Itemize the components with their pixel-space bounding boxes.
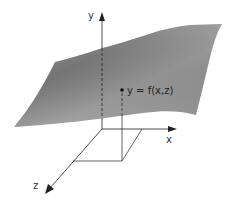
x-axis-label: x — [166, 134, 172, 145]
surface-point — [120, 88, 124, 92]
surface — [14, 24, 222, 127]
x-arrow-icon — [168, 126, 177, 132]
y-arrow-icon — [99, 12, 105, 21]
x-axis — [102, 126, 177, 132]
surface-diagram: y x z y = f(x,z) — [0, 0, 233, 200]
function-label: y = f(x,z) — [127, 85, 173, 96]
base-rectangle — [73, 129, 142, 161]
z-axis-label: z — [33, 180, 38, 191]
z-axis — [45, 129, 102, 194]
y-axis-label: y — [88, 10, 94, 21]
